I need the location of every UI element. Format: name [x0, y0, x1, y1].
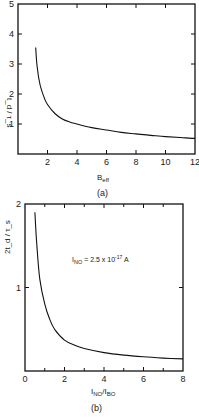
caption-b: (b): [91, 403, 102, 413]
x-tick-label: 8: [133, 157, 138, 167]
x-axis-label-a: Beff: [97, 173, 109, 183]
caption-a: (a): [97, 188, 108, 198]
x-tick-label: 6: [141, 374, 146, 384]
y-tick-label: 4: [9, 29, 14, 39]
panel-a: 2468101212345 t_d / τ_s Beff (a): [5, 0, 199, 198]
annotation-ino: INO = 2.5 x 10-17 A: [72, 254, 129, 265]
y-tick-label: 2: [16, 199, 21, 209]
figure: 2468101212345 t_d / τ_s Beff (a) 0246812…: [0, 0, 199, 418]
x-tick-label: 4: [101, 374, 106, 384]
y-axis-label-a: t_d / τ_s: [5, 98, 14, 127]
x-tick-label: 8: [180, 374, 185, 384]
x-tick-label: 4: [74, 157, 79, 167]
axis-ticks-b: [25, 204, 183, 371]
y-axis-label-b: 2t_d / τ_s: [3, 220, 12, 254]
x-tick-label: 10: [160, 157, 170, 167]
x-tick-label: 0: [22, 374, 27, 384]
x-axis-label-b: INO/IBO: [91, 387, 116, 397]
x-tick-label: 6: [104, 157, 109, 167]
x-tick-label: 12: [190, 157, 199, 167]
x-tick-label: 2: [45, 157, 50, 167]
plot-frame-b: [25, 204, 183, 371]
y-tick-label: 3: [9, 59, 14, 69]
curve-a: [36, 48, 195, 139]
y-tick-label: 1: [16, 283, 21, 293]
y-tick-label: 5: [9, 0, 14, 9]
panel-b: 0246812 2t_d / τ_s INO = 2.5 x 10-17 A I…: [3, 199, 186, 413]
x-tick-label: 2: [62, 374, 67, 384]
axis-ticks-a: [18, 4, 195, 154]
tick-labels-a: 2468101212345: [9, 0, 199, 167]
plot-frame-a: [18, 4, 195, 154]
curve-b: [35, 212, 183, 359]
